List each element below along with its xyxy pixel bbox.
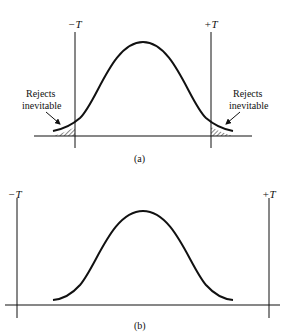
panel-b: −T +T (b)	[5, 188, 280, 332]
distribution-curve-b	[53, 211, 233, 300]
left-annotation-arrow	[46, 112, 60, 124]
right-annotation-line1: Rejects	[233, 88, 263, 99]
right-annotation-arrow	[226, 112, 240, 124]
caption-b: (b)	[134, 320, 146, 332]
panel-a: −T +T Rejects inevitable Rejects inevita…	[22, 18, 269, 165]
tolerance-diagram: −T +T Rejects inevitable Rejects inevita…	[0, 0, 291, 336]
upper-limit-label-a: +T	[204, 18, 218, 30]
upper-limit-label-b: +T	[262, 188, 276, 200]
left-annotation-line2: inevitable	[22, 100, 62, 111]
caption-a: (a)	[134, 153, 145, 165]
right-annotation-line2: inevitable	[229, 100, 269, 111]
left-annotation-line1: Rejects	[26, 88, 56, 99]
lower-limit-label-a: −T	[68, 18, 82, 30]
lower-limit-label-b: −T	[8, 188, 22, 200]
distribution-curve-a	[53, 42, 233, 131]
